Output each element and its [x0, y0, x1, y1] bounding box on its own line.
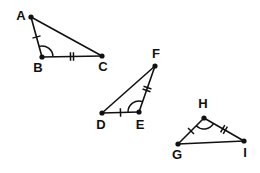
vertex-label-d: D — [96, 117, 105, 132]
vertex-label-i: I — [243, 145, 247, 160]
triangles-layer: ABCDEFGHI — [16, 8, 247, 162]
vertex-dot-e — [136, 109, 141, 114]
vertex-dot-i — [241, 138, 246, 143]
vertex-label-e: E — [136, 117, 145, 132]
vertex-dot-d — [99, 110, 104, 115]
vertex-dot-h — [201, 115, 206, 120]
vertex-label-c: C — [98, 59, 108, 74]
vertex-label-a: A — [16, 8, 26, 23]
vertex-dot-a — [28, 14, 33, 19]
vertex-dot-g — [175, 141, 180, 146]
vertex-label-h: H — [198, 96, 207, 111]
edge-ac — [31, 17, 102, 56]
edge-gi — [178, 141, 244, 144]
vertex-dot-b — [39, 54, 44, 59]
edge-bc — [42, 56, 102, 57]
vertex-label-f: F — [152, 46, 160, 61]
geometry-figure: ABCDEFGHI — [0, 0, 260, 173]
edge-hi — [204, 118, 244, 141]
vertex-dot-c — [99, 53, 104, 58]
vertex-label-g: G — [172, 147, 182, 162]
triangle-abc: ABC — [16, 8, 108, 75]
vertex-label-b: B — [33, 60, 42, 75]
geometry-canvas: ABCDEFGHI — [0, 0, 260, 173]
triangle-ghi: GHI — [172, 96, 247, 162]
vertex-dot-f — [152, 63, 157, 68]
